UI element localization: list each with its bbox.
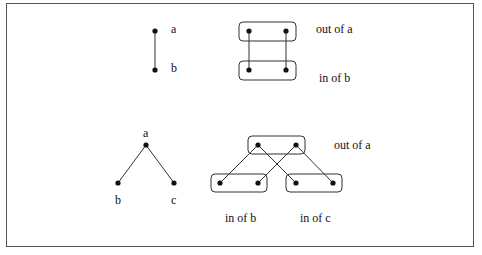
- port-node: [283, 67, 288, 72]
- edge: [296, 145, 333, 183]
- label-b: b: [115, 193, 121, 207]
- node-a: [152, 28, 157, 33]
- port-node: [246, 67, 251, 72]
- edge: [220, 145, 258, 183]
- port-node: [293, 142, 298, 147]
- label-b: b: [171, 61, 177, 75]
- diagram-canvas: a b out of a in of b a b c: [0, 0, 482, 255]
- port-node: [283, 28, 288, 33]
- label-out-of-a: out of a: [334, 138, 371, 152]
- label-in-of-b: in of b: [225, 211, 256, 225]
- node-a: [143, 142, 148, 147]
- graph-bottom-right: out of a in of b in of c: [211, 136, 371, 225]
- port-node: [330, 180, 335, 185]
- port-node: [217, 180, 222, 185]
- graph-top-right: out of a in of b: [239, 22, 353, 85]
- label-in-of-b: in of b: [319, 71, 350, 85]
- port-node: [246, 28, 251, 33]
- port-node: [255, 142, 260, 147]
- label-c: c: [171, 193, 176, 207]
- graph-bottom-left: a b c: [115, 126, 177, 207]
- graph-top-left: a b: [152, 22, 177, 75]
- label-a: a: [171, 22, 177, 36]
- label-out-of-a: out of a: [316, 22, 353, 36]
- node-b: [152, 67, 157, 72]
- edge-a-c: [146, 145, 174, 183]
- label-a: a: [143, 126, 149, 140]
- node-c: [171, 180, 176, 185]
- edge-a-b: [118, 145, 146, 183]
- port-node: [293, 180, 298, 185]
- port-node: [255, 180, 260, 185]
- node-b: [115, 180, 120, 185]
- label-in-of-c: in of c: [300, 211, 331, 225]
